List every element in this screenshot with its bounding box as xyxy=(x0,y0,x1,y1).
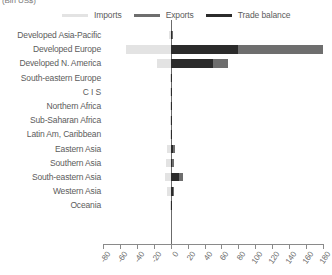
bar-row xyxy=(103,156,323,170)
bars-container xyxy=(103,26,323,238)
x-tick xyxy=(272,244,273,249)
x-tick xyxy=(154,244,155,249)
bar-row xyxy=(103,42,323,56)
x-tick xyxy=(137,244,138,249)
plot-area: Developed Asia-PacificDeveloped EuropeDe… xyxy=(0,26,323,249)
bar-row xyxy=(103,142,323,156)
category-label: Latin Am, Caribbean xyxy=(27,127,101,141)
legend-label: Trade balance xyxy=(238,10,291,20)
category-label: Oceania xyxy=(70,198,101,212)
category-label: Developed N. America xyxy=(19,56,101,70)
bar-trade-balance xyxy=(171,116,172,124)
x-tick xyxy=(221,244,222,249)
line-swatch-icon xyxy=(62,14,88,17)
x-tick xyxy=(120,244,121,249)
bar-row xyxy=(103,113,323,127)
bar-trade-balance xyxy=(171,130,172,138)
legend-item-trade-balance: Trade balance xyxy=(206,10,291,20)
bar-imports xyxy=(157,59,171,67)
category-label: Northern Africa xyxy=(47,99,101,113)
legend-label: Exports xyxy=(166,10,194,20)
bar-row xyxy=(103,170,323,184)
x-tick xyxy=(103,244,104,249)
bar-trade-balance xyxy=(171,187,174,195)
x-tick xyxy=(306,244,307,249)
x-tick xyxy=(323,244,324,249)
units-caption: (Bln US$) xyxy=(2,0,36,5)
bar-trade-balance xyxy=(171,74,172,82)
category-label: Developed Asia-Pacific xyxy=(17,28,101,42)
bar-row xyxy=(103,56,323,70)
category-label: Western Asia xyxy=(53,184,101,198)
x-tick xyxy=(188,244,189,249)
x-tick xyxy=(255,244,256,249)
bar-row xyxy=(103,85,323,99)
x-tick xyxy=(205,244,206,249)
bar-trade-balance xyxy=(171,201,172,209)
line-swatch-icon xyxy=(206,14,232,17)
bar-row xyxy=(103,184,323,198)
x-tick xyxy=(289,244,290,249)
chart-legend: ImportsExportsTrade balance xyxy=(62,8,320,22)
category-label: C I S xyxy=(83,85,101,99)
line-swatch-icon xyxy=(134,14,160,17)
category-label: Developed Europe xyxy=(33,42,101,56)
x-tick xyxy=(171,244,172,249)
category-label: Eastern Asia xyxy=(55,142,101,156)
legend-item-exports: Exports xyxy=(134,10,194,20)
bar-row xyxy=(103,28,323,42)
bar-trade-balance xyxy=(171,45,239,53)
category-label: Southern Asia xyxy=(50,156,101,170)
legend-label: Imports xyxy=(94,10,122,20)
legend-item-imports: Imports xyxy=(62,10,122,20)
bar-row xyxy=(103,71,323,85)
bar-trade-balance xyxy=(171,145,174,153)
bar-trade-balance xyxy=(171,31,173,39)
category-label: Sub-Saharan Africa xyxy=(30,113,101,127)
bar-trade-balance xyxy=(171,102,172,110)
bar-imports xyxy=(126,45,171,53)
bar-row xyxy=(103,99,323,113)
bar-trade-balance xyxy=(171,88,172,96)
category-axis-labels: Developed Asia-PacificDeveloped EuropeDe… xyxy=(0,26,101,238)
bar-row xyxy=(103,127,323,141)
bar-trade-balance xyxy=(171,59,213,67)
bar-trade-balance xyxy=(171,159,173,167)
bar-trade-balance xyxy=(171,173,179,181)
bar-row xyxy=(103,198,323,212)
x-tick xyxy=(238,244,239,249)
category-label: South-eastern Asia xyxy=(32,170,101,184)
category-label: South-eastern Europe xyxy=(21,71,101,85)
